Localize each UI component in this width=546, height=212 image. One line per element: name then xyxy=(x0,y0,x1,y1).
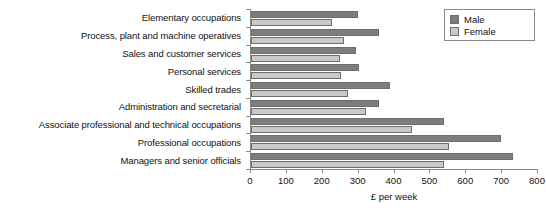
category-label: Professional occupations xyxy=(0,133,246,151)
x-axis-tick xyxy=(286,169,287,173)
bar-group xyxy=(251,133,537,151)
category-label: Managers and senior officials xyxy=(0,151,246,169)
y-axis-tick xyxy=(246,9,250,10)
x-axis-tick-label: 100 xyxy=(278,175,294,186)
bar-group xyxy=(251,98,537,116)
y-axis-tick xyxy=(246,133,250,134)
x-axis-tick-label: 600 xyxy=(457,175,473,186)
x-axis-tick-label: 0 xyxy=(247,175,252,186)
x-axis-tick-label: 800 xyxy=(529,175,545,186)
bar-male xyxy=(251,11,358,18)
bar-male xyxy=(251,47,356,54)
bar-male xyxy=(251,82,390,89)
bar-female xyxy=(251,37,344,44)
x-axis-title: £ per week xyxy=(250,191,538,202)
bar-male xyxy=(251,64,359,71)
x-axis-tick xyxy=(429,169,430,173)
category-axis-labels: Elementary occupationsProcess, plant and… xyxy=(0,9,246,169)
bar-female xyxy=(251,90,348,97)
chart-legend: Male Female xyxy=(444,9,535,41)
legend-label-male: Male xyxy=(464,14,485,25)
bar-female xyxy=(251,19,332,26)
bar-female xyxy=(251,55,340,62)
bar-group xyxy=(251,80,537,98)
bar-male xyxy=(251,153,513,160)
bar-group xyxy=(251,62,537,80)
y-axis-tick xyxy=(246,151,250,152)
bar-female xyxy=(251,161,444,168)
bar-group xyxy=(251,151,537,169)
bar-female xyxy=(251,108,366,115)
bar-male xyxy=(251,135,501,142)
legend-label-female: Female xyxy=(464,26,496,37)
bar-male xyxy=(251,100,379,107)
y-axis-tick xyxy=(246,98,250,99)
legend-item-male: Male xyxy=(450,13,530,25)
bar-group xyxy=(251,116,537,134)
y-axis-tick xyxy=(246,116,250,117)
x-axis-tick-label: 400 xyxy=(386,175,402,186)
bar-male xyxy=(251,118,444,125)
bar-chart: Elementary occupationsProcess, plant and… xyxy=(0,0,546,212)
legend-item-female: Female xyxy=(450,25,530,37)
bar-female xyxy=(251,143,449,150)
x-axis-tick-label: 300 xyxy=(350,175,366,186)
category-label: Sales and customer services xyxy=(0,45,246,63)
bar-group xyxy=(251,45,537,63)
x-axis-tick-label: 500 xyxy=(421,175,437,186)
category-label: Skilled trades xyxy=(0,80,246,98)
category-label: Elementary occupations xyxy=(0,9,246,27)
x-axis-tick xyxy=(394,169,395,173)
y-axis-tick xyxy=(246,45,250,46)
x-axis-tick xyxy=(250,169,251,173)
y-axis-tick xyxy=(246,80,250,81)
x-axis-tick-label: 200 xyxy=(314,175,330,186)
category-label: Process, plant and machine operatives xyxy=(0,27,246,45)
category-label: Administration and secretarial xyxy=(0,98,246,116)
y-axis-tick xyxy=(246,62,250,63)
legend-swatch-male-icon xyxy=(450,15,459,24)
bar-male xyxy=(251,29,379,36)
x-axis-tick xyxy=(465,169,466,173)
x-axis-tick-label: 700 xyxy=(493,175,509,186)
x-axis-tick xyxy=(537,169,538,173)
category-label: Personal services xyxy=(0,62,246,80)
y-axis-tick xyxy=(246,27,250,28)
x-axis-tick xyxy=(501,169,502,173)
bar-female xyxy=(251,72,341,79)
category-label: Associate professional and technical occ… xyxy=(0,116,246,134)
x-axis-tick xyxy=(322,169,323,173)
bar-female xyxy=(251,126,412,133)
x-axis-tick xyxy=(358,169,359,173)
legend-swatch-female-icon xyxy=(450,27,459,36)
